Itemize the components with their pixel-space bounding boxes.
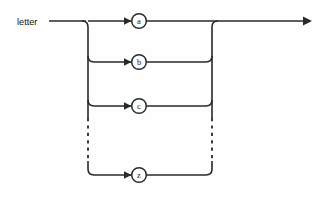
token-label-z: z bbox=[137, 170, 141, 180]
branch-c-rail-out bbox=[147, 100, 212, 106]
token-label-c: c bbox=[137, 101, 141, 111]
branch-b-rail-out bbox=[147, 56, 212, 62]
branch-a-arrowhead bbox=[124, 17, 132, 25]
token-label-b: b bbox=[137, 57, 141, 67]
exit-arrowhead bbox=[303, 17, 312, 26]
railroad-diagram-svg: letter a b c bbox=[0, 0, 335, 201]
right-spine-upper bbox=[212, 21, 218, 118]
entry-label-letter: letter bbox=[17, 17, 37, 27]
right-spine-lower bbox=[206, 161, 212, 175]
left-spine-lower bbox=[88, 161, 94, 175]
railroad-diagram-canvas: letter a b c bbox=[0, 0, 335, 201]
left-spine-upper bbox=[82, 21, 88, 118]
token-label-a: a bbox=[137, 16, 141, 26]
branch-z-arrowhead bbox=[124, 171, 132, 179]
branch-c-arrowhead bbox=[124, 102, 132, 110]
branch-b-arrowhead bbox=[124, 58, 132, 66]
